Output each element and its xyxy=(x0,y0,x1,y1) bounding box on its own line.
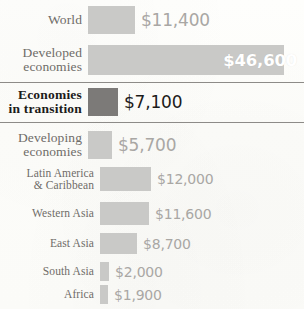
bar-area-east-asia: $8,700 xyxy=(100,233,304,254)
row-label-line1: Africa xyxy=(0,288,94,300)
bar-value-latin-america-caribbean: $12,000 xyxy=(157,171,214,187)
chart-row-western-asia: Western Asia $11,600 xyxy=(0,202,304,225)
row-label-line1: Developing xyxy=(0,131,82,145)
row-label-line2: & Caribbean xyxy=(0,179,94,191)
bar-area-world: $11,400 xyxy=(88,6,304,34)
chart-row-africa: Africa $1,900 xyxy=(0,285,304,304)
chart-row-economies-in-transition: Economies in transition $7,100 xyxy=(0,88,304,116)
row-label-line1: East Asia xyxy=(0,237,94,249)
section-separator-top xyxy=(0,82,304,83)
row-label-line1: South Asia xyxy=(0,265,94,277)
chart-row-latin-america-caribbean: Latin America & Caribbean $12,000 xyxy=(0,167,304,191)
row-label-western-asia: Western Asia xyxy=(0,207,100,219)
bar-area-developing-economies: $5,700 xyxy=(88,131,304,159)
row-label-economies-in-transition: Economies in transition xyxy=(0,88,88,117)
bar-value-developing-economies: $5,700 xyxy=(118,135,176,155)
row-label-line1: Western Asia xyxy=(0,207,94,219)
row-label-line1: Latin America xyxy=(0,167,94,179)
bar-east-asia xyxy=(100,233,137,254)
chart-row-east-asia: East Asia $8,700 xyxy=(0,233,304,254)
chart-row-developing-economies: Developing economies $5,700 xyxy=(0,131,304,159)
bar-value-developed-economies: $46,600 xyxy=(223,51,297,70)
bar-value-south-asia: $2,000 xyxy=(115,264,163,280)
bar-area-latin-america-caribbean: $12,000 xyxy=(100,167,304,191)
row-label-line2: economies xyxy=(0,145,82,159)
row-label-latin-america-caribbean: Latin America & Caribbean xyxy=(0,167,100,191)
row-label-africa: Africa xyxy=(0,288,100,300)
row-label-line2: economies xyxy=(0,60,82,74)
bar-chart: World $11,400 Developed economies $46,60… xyxy=(0,0,304,309)
row-label-east-asia: East Asia xyxy=(0,237,100,249)
chart-row-world: World $11,400 xyxy=(0,6,304,34)
bar-western-asia xyxy=(100,202,149,225)
bar-africa xyxy=(100,285,108,304)
bar-value-economies-in-transition: $7,100 xyxy=(124,92,182,112)
bar-economies-in-transition xyxy=(88,88,118,116)
row-label-line1: Economies xyxy=(0,88,82,102)
bar-value-western-asia: $11,600 xyxy=(155,206,212,222)
chart-row-developed-economies: Developed economies $46,600 xyxy=(0,45,304,75)
row-label-developing-economies: Developing economies xyxy=(0,131,88,160)
row-label-south-asia: South Asia xyxy=(0,265,100,277)
bar-world xyxy=(88,6,135,34)
bar-area-africa: $1,900 xyxy=(100,285,304,304)
bar-value-africa: $1,900 xyxy=(114,287,162,303)
chart-row-south-asia: South Asia $2,000 xyxy=(0,262,304,281)
row-label-line1: World xyxy=(0,13,82,27)
bar-south-asia xyxy=(100,262,109,281)
section-separator-bottom xyxy=(0,122,304,123)
row-label-developed-economies: Developed economies xyxy=(0,46,88,75)
bar-area-western-asia: $11,600 xyxy=(100,202,304,225)
row-label-world: World xyxy=(0,13,88,27)
row-label-line1: Developed xyxy=(0,46,82,60)
bar-value-world: $11,400 xyxy=(141,10,210,30)
bar-value-east-asia: $8,700 xyxy=(143,236,191,252)
bar-latin-america-caribbean xyxy=(100,167,151,191)
bar-area-south-asia: $2,000 xyxy=(100,262,304,281)
bar-area-economies-in-transition: $7,100 xyxy=(88,88,304,116)
bar-developing-economies xyxy=(88,131,112,159)
row-label-line2: in transition xyxy=(0,102,82,116)
bar-area-developed-economies: $46,600 xyxy=(88,45,304,75)
